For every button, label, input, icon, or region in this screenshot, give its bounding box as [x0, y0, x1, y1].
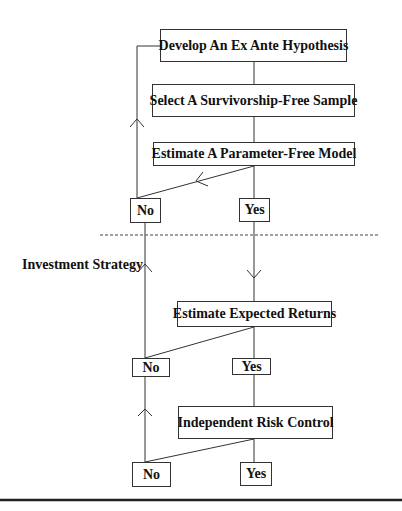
- node-select-sample: Select A Survivorship-Free Sample: [152, 84, 355, 117]
- section-label-investment-strategy: Investment Strategy: [22, 257, 143, 273]
- node-risk-no: No: [132, 462, 171, 487]
- node-label: No: [143, 467, 160, 483]
- node-label: Develop An Ex Ante Hypothesis: [159, 38, 349, 54]
- node-label: Yes: [244, 202, 264, 218]
- node-returns-no: No: [132, 358, 170, 377]
- node-label: Yes: [246, 466, 266, 482]
- node-model-yes: Yes: [239, 198, 270, 222]
- node-develop-hypothesis: Develop An Ex Ante Hypothesis: [160, 29, 347, 62]
- node-estimate-model: Estimate A Parameter-Free Model: [153, 142, 355, 166]
- node-label: Estimate Expected Returns: [173, 306, 336, 322]
- node-risk-control: Independent Risk Control: [178, 406, 333, 439]
- node-label: Select A Survivorship-Free Sample: [150, 93, 358, 109]
- node-label: No: [142, 360, 159, 376]
- node-risk-yes: Yes: [240, 462, 272, 486]
- node-returns-yes: Yes: [232, 358, 271, 375]
- node-label: Yes: [241, 359, 261, 375]
- node-label: Estimate A Parameter-Free Model: [152, 146, 357, 162]
- node-estimate-returns: Estimate Expected Returns: [177, 301, 332, 327]
- node-model-no: No: [130, 198, 161, 223]
- node-label: No: [137, 203, 154, 219]
- node-label: Independent Risk Control: [177, 415, 333, 431]
